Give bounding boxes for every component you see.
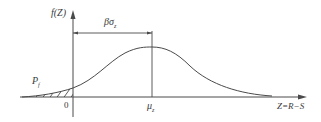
failure-probability-subscript: f [38,82,40,88]
failure-region-hatch [20,86,79,100]
y-axis-arrow-icon [71,10,76,19]
y-axis-label-text: f(Z) [51,7,66,18]
dimension-label: βσz [104,17,116,29]
density-curve [22,47,272,97]
y-axis-label: f(Z) [51,8,66,18]
mean-label-subscript: z [152,107,154,113]
dimension-arrow-left-icon [73,32,78,35]
origin-label: 0 [64,101,69,110]
x-axis-label-text: Z=R−S [277,101,304,111]
x-axis-label: Z=R−S [277,102,304,111]
mean-label: μz [147,101,154,113]
origin-label-text: 0 [64,100,69,110]
x-axis-arrow-icon [298,95,307,100]
dimension-arrow-right-icon [147,32,152,35]
dimension-label-subscript: z [114,23,116,29]
reliability-diagram: f(Z) βσz Pf 0 μz Z=R−S [0,0,321,122]
diagram-graphics [0,0,321,122]
failure-probability-label: Pf [32,76,40,88]
dimension-label-text: βσ [104,16,114,27]
